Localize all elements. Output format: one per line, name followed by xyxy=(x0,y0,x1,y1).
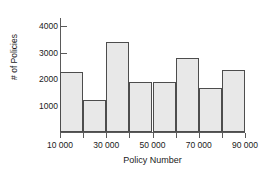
x-tick xyxy=(153,133,154,138)
x-tick-label: 10 000 xyxy=(37,140,83,150)
histogram-bar xyxy=(199,88,222,132)
histogram-bar xyxy=(60,72,83,132)
histogram-bar xyxy=(176,58,199,132)
histogram-bar xyxy=(83,100,106,132)
bars-group xyxy=(60,18,245,132)
x-tick xyxy=(83,133,84,138)
x-tick xyxy=(60,133,61,138)
x-tick xyxy=(106,133,107,138)
y-tick-label-wrap: 1000 xyxy=(0,102,58,110)
histogram-chart: 1000200030004000 10 00030 00050 00070 00… xyxy=(0,0,259,177)
x-axis-title: Policy Number xyxy=(60,155,245,165)
x-tick xyxy=(199,133,200,138)
x-tick xyxy=(129,133,130,138)
y-tick-label: 2000 xyxy=(24,75,58,83)
histogram-bar xyxy=(129,82,152,132)
histogram-bar xyxy=(106,42,129,132)
x-tick-label: 50 000 xyxy=(130,140,176,150)
x-tick xyxy=(176,133,177,138)
x-tick xyxy=(222,133,223,138)
x-tick-label: 70 000 xyxy=(176,140,222,150)
y-tick-label: 4000 xyxy=(24,22,58,30)
histogram-bar xyxy=(153,82,176,132)
y-axis-title: # of Policies xyxy=(9,21,19,93)
x-tick-label: 30 000 xyxy=(83,140,129,150)
histogram-bar xyxy=(222,70,245,132)
x-tick-label: 90 000 xyxy=(222,140,259,150)
y-tick-label: 1000 xyxy=(24,102,58,110)
y-tick-label: 3000 xyxy=(24,49,58,57)
x-tick xyxy=(245,133,246,138)
